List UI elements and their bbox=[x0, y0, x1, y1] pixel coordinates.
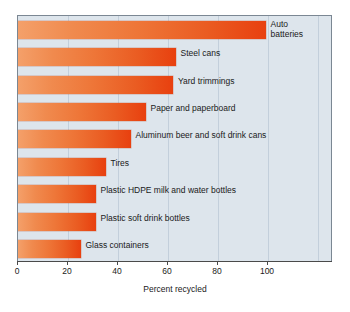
bar[interactable]: Tires bbox=[18, 158, 106, 176]
bar-row: Aluminum beer and soft drink cans bbox=[18, 126, 331, 153]
tick-mark bbox=[17, 261, 18, 265]
tick-label: 0 bbox=[15, 266, 20, 276]
bar-label-line: batteries bbox=[271, 29, 313, 39]
bar-label: Autobatteries bbox=[271, 19, 313, 39]
bar[interactable]: Yard trimmings bbox=[18, 76, 173, 94]
tick-mark bbox=[167, 261, 168, 265]
tick-mark bbox=[217, 261, 218, 265]
bar-row: Yard trimmings bbox=[18, 71, 331, 98]
bar-label: Yard trimmings bbox=[178, 76, 235, 86]
bar[interactable]: Steel cans bbox=[18, 48, 176, 66]
bar-chart: AutobatteriesSteel cansYard trimmingsPap… bbox=[0, 0, 350, 312]
bar-label: Tires bbox=[111, 158, 130, 168]
bar-label: Plastic soft drink bottles bbox=[101, 213, 190, 223]
tick-mark bbox=[117, 261, 118, 265]
bar-label: Plastic HDPE milk and water bottles bbox=[101, 185, 237, 195]
bar-row: Plastic HDPE milk and water bottles bbox=[18, 181, 331, 208]
tick-mark bbox=[67, 261, 68, 265]
x-axis-title: Percent recycled bbox=[0, 284, 350, 294]
tick-label: 60 bbox=[162, 266, 171, 276]
bar[interactable]: Autobatteries bbox=[18, 21, 266, 39]
tick-label: 40 bbox=[112, 266, 121, 276]
bar-label: Steel cans bbox=[181, 48, 221, 58]
tick-label: 100 bbox=[260, 266, 274, 276]
bar-label: Aluminum beer and soft drink cans bbox=[136, 130, 267, 140]
x-axis-line bbox=[17, 261, 332, 262]
bar[interactable]: Plastic HDPE milk and water bottles bbox=[18, 185, 96, 203]
bar[interactable]: Glass containers bbox=[18, 240, 81, 258]
bar[interactable]: Plastic soft drink bottles bbox=[18, 213, 96, 231]
tick-label: 20 bbox=[62, 266, 71, 276]
bar-label: Paper and paperboard bbox=[151, 103, 236, 113]
bar-label-line: Auto bbox=[271, 19, 313, 29]
bar[interactable]: Aluminum beer and soft drink cans bbox=[18, 130, 131, 148]
tick-label: 80 bbox=[212, 266, 221, 276]
bar-row: Plastic soft drink bottles bbox=[18, 208, 331, 235]
bar-row: Glass containers bbox=[18, 236, 331, 262]
bar[interactable]: Paper and paperboard bbox=[18, 103, 146, 121]
bar-row: Autobatteries bbox=[18, 16, 331, 43]
bar-label: Glass containers bbox=[86, 240, 149, 250]
tick-mark bbox=[267, 261, 268, 265]
plot-area: AutobatteriesSteel cansYard trimmingsPap… bbox=[17, 15, 332, 262]
bar-row: Steel cans bbox=[18, 43, 331, 70]
bar-row: Paper and paperboard bbox=[18, 98, 331, 125]
bar-row: Tires bbox=[18, 153, 331, 180]
